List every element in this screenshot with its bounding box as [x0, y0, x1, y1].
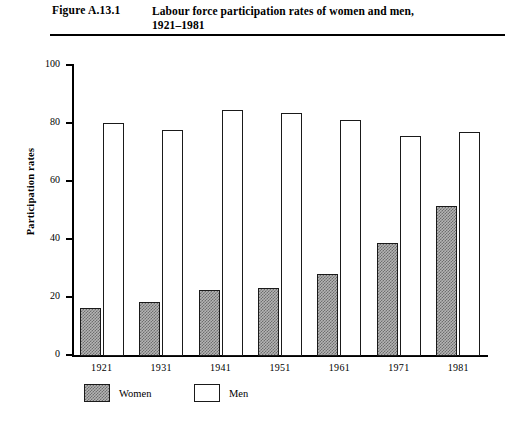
x-axis-tick-label-1921: 1921: [72, 362, 132, 373]
y-axis-tick: [66, 354, 74, 356]
bar-women-1961: [317, 274, 338, 356]
y-axis-tick-label: 80: [26, 116, 60, 127]
legend-swatch-women: [84, 384, 110, 402]
y-axis-tick: [66, 122, 74, 124]
legend-item-women: Women: [84, 384, 151, 402]
bar-women-1921: [80, 308, 101, 356]
bar-women-1941: [199, 290, 220, 356]
x-axis-line: [72, 355, 488, 357]
bar-men-1941: [222, 110, 243, 356]
bar-men-1921: [103, 123, 124, 356]
bar-men-1951: [281, 113, 302, 356]
y-axis-tick: [66, 64, 74, 66]
figure-caption: Labour force participation rates of wome…: [152, 4, 502, 32]
x-axis-tick-label-1951: 1951: [250, 362, 310, 373]
y-axis-tick: [66, 180, 74, 182]
bar-men-1961: [340, 120, 361, 356]
figure-header: Figure A.13.1 Labour force participation…: [0, 0, 510, 36]
figure-number: Figure A.13.1: [52, 4, 121, 16]
y-axis-tick-label: 60: [26, 174, 60, 185]
x-axis-tick-label-1981: 1981: [428, 362, 488, 373]
x-axis-tick-label-1941: 1941: [191, 362, 251, 373]
bar-women-1981: [436, 206, 457, 356]
figure-caption-line-1: Labour force participation rates of wome…: [152, 4, 502, 18]
x-axis-tick-label-1971: 1971: [369, 362, 429, 373]
bar-chart: Participation rates 020406080100 1921193…: [0, 36, 510, 424]
legend-label-women: Women: [119, 388, 151, 399]
y-axis-tick-label: 100: [26, 58, 60, 69]
bar-women-1971: [377, 243, 398, 356]
y-axis-tick-label: 40: [26, 232, 60, 243]
bar-women-1931: [139, 302, 160, 356]
y-axis-tick-label: 20: [26, 290, 60, 301]
legend-swatch-men: [194, 384, 220, 402]
y-axis-tick: [66, 296, 74, 298]
y-axis-tick-label: 0: [26, 348, 60, 359]
x-axis-tick-label-1961: 1961: [309, 362, 369, 373]
legend-label-men: Men: [229, 388, 248, 399]
bar-men-1981: [459, 132, 480, 356]
bar-men-1971: [400, 136, 421, 356]
bar-women-1951: [258, 288, 279, 356]
y-axis-tick: [66, 238, 74, 240]
bar-men-1931: [162, 130, 183, 356]
legend-item-men: Men: [194, 384, 248, 402]
x-axis-tick-label-1931: 1931: [131, 362, 191, 373]
figure-caption-line-2: 1921–1981: [152, 18, 502, 32]
y-axis-line: [72, 65, 74, 357]
